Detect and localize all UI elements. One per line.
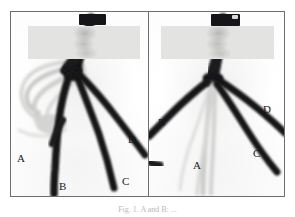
left-panel: A B C D bbox=[11, 12, 148, 196]
vessel-label-a: A bbox=[17, 153, 25, 164]
vessel-label-a: A bbox=[193, 160, 201, 171]
vessel-label-b: B bbox=[59, 181, 66, 192]
vessel-label-c: C bbox=[122, 176, 129, 187]
marker-bar bbox=[211, 14, 240, 26]
marker-bar bbox=[79, 14, 106, 25]
vessel-label-c: C bbox=[253, 148, 260, 159]
band-smudge bbox=[73, 27, 98, 57]
figure-root: A B C D bbox=[0, 0, 295, 217]
redaction-band bbox=[161, 26, 274, 59]
right-panel: B A C D bbox=[149, 12, 285, 196]
strand-edge-nub bbox=[149, 162, 160, 165]
figure-caption: Fig. 1. A and B: ... bbox=[0, 205, 295, 215]
band-smudge bbox=[206, 27, 231, 57]
marker-nick bbox=[232, 15, 238, 19]
figure-frame: A B C D bbox=[10, 11, 285, 197]
vessel-label-d: D bbox=[263, 104, 271, 115]
redaction-band bbox=[28, 26, 140, 59]
vessel-label-d: D bbox=[128, 134, 136, 145]
vessel-label-b: B bbox=[158, 117, 165, 128]
